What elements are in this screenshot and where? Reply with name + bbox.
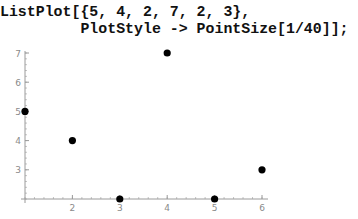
y-tick-label: 5 [15, 107, 21, 117]
data-point [164, 49, 171, 56]
x-tick-label: 5 [212, 203, 218, 213]
data-point [258, 166, 265, 173]
y-tick-label: 3 [15, 165, 21, 175]
y-axis: 34567 [15, 49, 29, 204]
x-tick-label: 3 [117, 203, 123, 213]
data-points [21, 49, 265, 202]
x-axis: 23456 [21, 195, 268, 213]
x-tick-label: 4 [164, 203, 170, 213]
y-tick-label: 4 [15, 136, 21, 146]
y-tick-label: 7 [15, 49, 21, 59]
data-point [116, 195, 123, 202]
data-point [69, 137, 76, 144]
x-tick-label: 6 [259, 203, 265, 213]
data-point [211, 195, 218, 202]
x-tick-label: 2 [70, 203, 76, 213]
data-point [21, 108, 28, 115]
list-plot: 34567 23456 [0, 0, 358, 219]
y-tick-label: 6 [15, 78, 21, 88]
